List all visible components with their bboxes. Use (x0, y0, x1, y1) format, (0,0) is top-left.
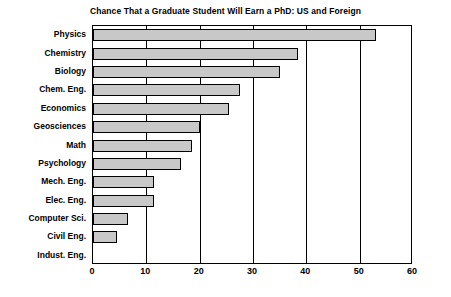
x-axis-tick-label: 0 (89, 266, 94, 276)
bar (93, 29, 376, 41)
y-axis-tick-label: Geosciences (34, 121, 86, 131)
y-axis-tick-label: Civil Eng. (47, 231, 86, 241)
bar (93, 213, 128, 225)
y-axis-tick-label: Biology (55, 66, 86, 76)
x-axis-tick-label: 30 (247, 266, 257, 276)
bar (93, 121, 200, 133)
y-axis-tick-label: Physics (54, 29, 86, 39)
y-axis-tick-label: Mech. Eng. (41, 176, 86, 186)
x-axis-labels: 0102030405060 (92, 266, 412, 280)
bar (93, 195, 154, 207)
bar (93, 231, 117, 243)
x-axis-tick-label: 20 (194, 266, 204, 276)
chart-title: Chance That a Graduate Student Will Earn… (0, 6, 451, 16)
bar (93, 158, 181, 170)
y-axis-tick-label: Economics (41, 103, 86, 113)
y-axis-tick-label: Math (66, 140, 86, 150)
bar (93, 140, 192, 152)
bar (93, 103, 229, 115)
bar (93, 66, 280, 78)
x-axis-tick-label: 40 (300, 266, 310, 276)
y-axis-labels: PhysicsChemistryBiologyChem. Eng.Economi… (0, 25, 89, 264)
bar (93, 48, 298, 60)
x-axis-tick-label: 50 (354, 266, 364, 276)
bar (93, 84, 240, 96)
y-axis-tick-label: Chemistry (44, 48, 86, 58)
x-axis-tick-label: 60 (407, 266, 417, 276)
y-axis-tick-label: Psychology (38, 158, 86, 168)
y-axis-tick-label: Chem. Eng. (39, 84, 86, 94)
bar (93, 176, 154, 188)
y-axis-tick-label: Indust. Eng. (37, 250, 86, 260)
x-axis-tick-label: 10 (140, 266, 150, 276)
bars-layer (93, 26, 411, 263)
y-axis-tick-label: Elec. Eng. (45, 195, 86, 205)
chart-container: Chance That a Graduate Student Will Earn… (0, 0, 451, 297)
plot-area (92, 25, 412, 264)
y-axis-tick-label: Computer Sci. (28, 213, 86, 223)
